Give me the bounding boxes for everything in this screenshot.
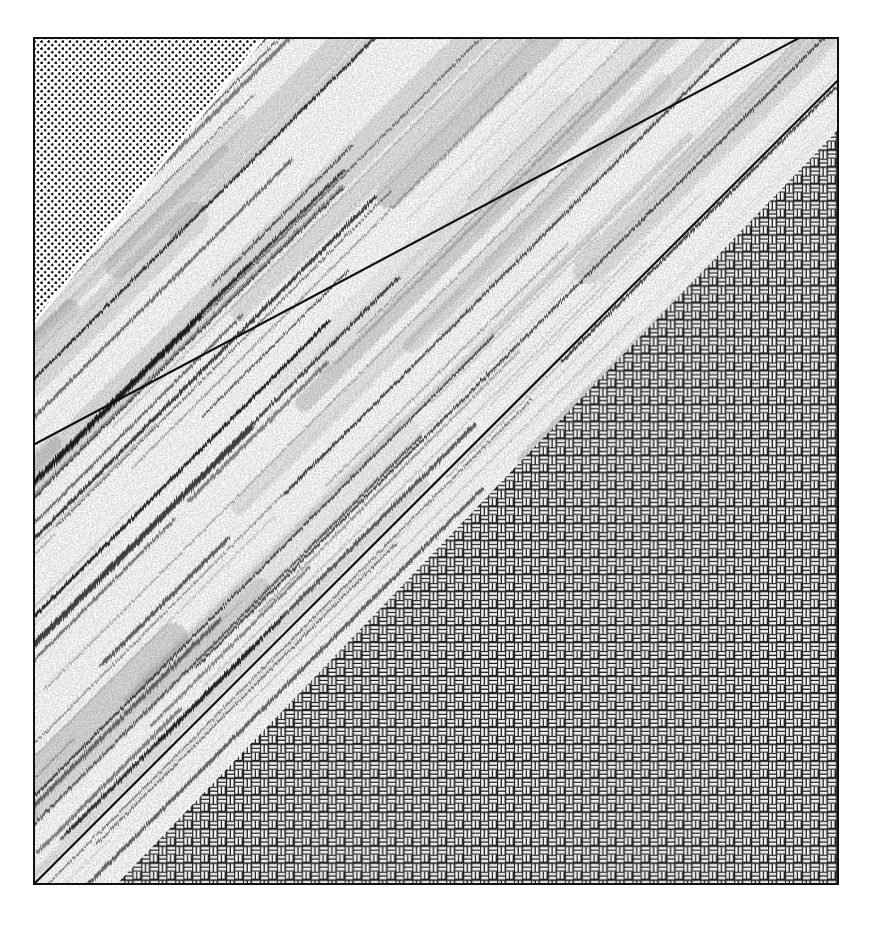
diagram-plate [33,37,839,885]
figure-root [0,0,875,927]
